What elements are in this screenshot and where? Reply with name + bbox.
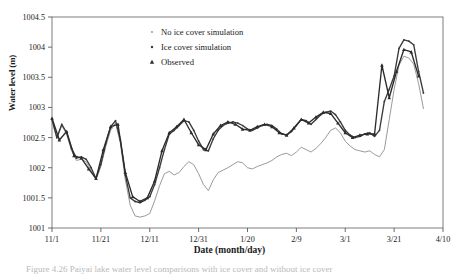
series-marker	[149, 196, 151, 198]
series-marker	[310, 123, 312, 125]
x-tick-label: 11/21	[92, 235, 110, 244]
series-marker	[242, 125, 244, 127]
series-marker	[164, 149, 166, 151]
x-tick-label: 2/9	[291, 235, 301, 244]
y-tick-label: 1003.5	[22, 73, 45, 82]
legend-marker	[151, 46, 153, 48]
series-marker	[384, 101, 386, 103]
series-marker	[115, 120, 117, 122]
y-tick-label: 1003	[29, 103, 45, 112]
legend-label: Observed	[161, 57, 195, 67]
y-tick-label: 1001	[29, 224, 45, 233]
figure-caption: Figure 4.26 Paiyai lake water level comp…	[26, 264, 446, 274]
series-marker	[90, 167, 92, 169]
series-marker	[198, 140, 200, 142]
y-tick-label: 1004	[29, 43, 45, 52]
series-marker	[387, 96, 391, 99]
x-tick-label: 4/10	[436, 235, 451, 244]
series-marker	[208, 150, 210, 152]
series-marker	[413, 44, 415, 46]
legend-marker	[150, 60, 154, 64]
x-tick-label: 3/1	[340, 235, 350, 244]
y-tick-label: 1002.5	[22, 134, 45, 143]
series-marker	[379, 129, 381, 131]
legend-label: No ice cover simulation	[161, 27, 244, 37]
series-marker	[335, 114, 337, 116]
figure-container: Water level (m) 10011001.510021002.51003…	[0, 0, 459, 274]
series-marker	[212, 138, 214, 140]
series-marker	[388, 88, 390, 90]
series-marker	[85, 158, 87, 160]
series-marker	[340, 121, 342, 123]
series-marker	[408, 40, 410, 42]
series-marker	[76, 157, 78, 159]
x-tick-label: 3/21	[387, 235, 402, 244]
y-tick-label: 1002	[29, 164, 45, 173]
x-axis-title: Date (month/day)	[0, 245, 459, 255]
series-marker	[129, 197, 131, 199]
x-tick-label: 12/31	[189, 235, 208, 244]
x-tick-label: 12/11	[141, 235, 159, 244]
x-tick-label: 1/20	[240, 235, 255, 244]
series-marker	[56, 137, 58, 139]
legend-marker	[151, 31, 153, 33]
x-tick-label: 11/1	[45, 235, 59, 244]
y-tick-label: 1004.5	[22, 13, 45, 22]
series-marker	[131, 195, 135, 198]
series-marker	[403, 39, 405, 41]
legend-label: Ice cover simulation	[161, 42, 232, 52]
series-marker	[182, 118, 186, 121]
series-marker	[423, 92, 425, 94]
series-marker	[315, 119, 317, 121]
series-line	[52, 40, 423, 203]
series-marker	[237, 122, 239, 124]
series-marker	[159, 167, 161, 169]
series-marker	[232, 121, 234, 123]
plot-frame	[52, 17, 443, 228]
series-marker	[134, 201, 136, 203]
series-marker	[188, 121, 190, 123]
line-chart-svg: 10011001.510021002.510031003.510041004.5…	[0, 0, 459, 274]
series-marker	[50, 116, 54, 119]
series-marker	[398, 48, 400, 50]
series-marker	[374, 136, 376, 138]
y-tick-label: 1001.5	[22, 194, 45, 203]
series-marker	[380, 63, 384, 66]
series-marker	[61, 123, 63, 125]
series-marker	[193, 129, 195, 131]
